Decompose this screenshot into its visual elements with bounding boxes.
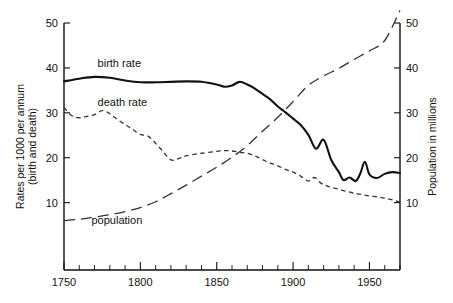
left-tick-label-40: 40 bbox=[46, 62, 58, 74]
series-line-birth-rate bbox=[64, 77, 400, 181]
right-axis-tick-labels: 1020304050 bbox=[406, 17, 418, 209]
y2-axis-title: Population in millions bbox=[426, 97, 438, 196]
right-tick-label-30: 30 bbox=[406, 107, 418, 119]
series-line-death-rate bbox=[64, 107, 400, 202]
left-tick-label-30: 30 bbox=[46, 107, 58, 119]
x-tick-label-1850: 1850 bbox=[204, 276, 228, 288]
x-tick-label-1900: 1900 bbox=[281, 276, 305, 288]
annotation-population: population bbox=[91, 214, 142, 226]
right-tick-label-50: 50 bbox=[406, 17, 418, 29]
x-tick-label-1800: 1800 bbox=[128, 276, 152, 288]
right-tick-label-10: 10 bbox=[406, 197, 418, 209]
bottom-axis-tick-labels: 17501800185019001950 bbox=[52, 276, 382, 288]
y-axis-title-line-1: Rates per 1000 per annum bbox=[14, 84, 26, 209]
right-axis-ticks bbox=[394, 23, 400, 203]
annotation-death-rate: death rate bbox=[98, 96, 148, 108]
x-tick-label-1950: 1950 bbox=[357, 276, 381, 288]
series-line-population bbox=[64, 10, 400, 220]
y-axis-title-line-2: (birth and death) bbox=[26, 108, 38, 185]
left-axis-tick-labels: 1020304050 bbox=[46, 17, 58, 209]
right-tick-label-20: 20 bbox=[406, 152, 418, 164]
right-tick-label-40: 40 bbox=[406, 62, 418, 74]
data-series bbox=[64, 10, 400, 220]
axis-titles: Rates per 1000 per annum (birth and deat… bbox=[14, 84, 438, 209]
chart-canvas: 1020304050 1020304050 175018001850190019… bbox=[0, 0, 453, 303]
left-tick-label-50: 50 bbox=[46, 17, 58, 29]
left-tick-label-10: 10 bbox=[46, 197, 58, 209]
x-tick-label-1750: 1750 bbox=[52, 276, 76, 288]
bottom-axis-ticks bbox=[64, 262, 400, 270]
demographic-transition-chart: 1020304050 1020304050 175018001850190019… bbox=[0, 0, 453, 303]
annotation-birth-rate: birth rate bbox=[98, 57, 141, 69]
left-axis-ticks bbox=[64, 23, 70, 203]
left-tick-label-20: 20 bbox=[46, 152, 58, 164]
